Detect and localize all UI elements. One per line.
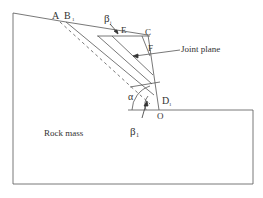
label-f: F	[148, 43, 153, 53]
label-beta-j-subscript: j	[109, 20, 111, 25]
slope-crest-surface	[13, 13, 148, 35]
joint-plane-leader	[135, 50, 180, 56]
failure-plane-dashed	[60, 22, 150, 104]
joint-line-2	[98, 36, 152, 84]
label-beta-1-subscript: 1	[136, 132, 139, 138]
label-alpha: α	[128, 91, 134, 102]
label-o: O	[157, 111, 164, 121]
label-c: C	[145, 27, 151, 37]
slope-diagram: A B 1 β j E C F Joint plane α D 1 O β 1 …	[0, 0, 263, 198]
label-e: E	[121, 25, 127, 35]
label-d-subscript: 1	[169, 102, 172, 107]
label-joint-plane: Joint plane	[181, 44, 220, 54]
joint-line-b1	[66, 22, 154, 95]
joint-line-e	[112, 36, 153, 75]
joint-plane-arrow-head	[133, 54, 138, 58]
label-rock-mass: Rock mass	[44, 128, 84, 138]
beta-j-arrow-head	[114, 30, 118, 34]
label-b: B	[64, 10, 71, 21]
label-a: A	[52, 10, 60, 21]
label-b-subscript: 1	[72, 17, 75, 22]
